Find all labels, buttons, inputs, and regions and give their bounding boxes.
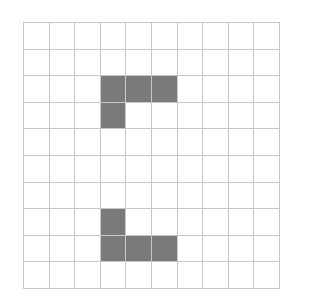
grid-cell (24, 209, 50, 236)
grid-cell (126, 129, 152, 156)
grid-cell (50, 23, 76, 50)
grid-cell (101, 23, 127, 50)
grid-cell (178, 236, 204, 263)
grid-cell (126, 103, 152, 130)
grid-cell (203, 262, 229, 289)
grid-cell (229, 50, 255, 77)
grid-cell (24, 156, 50, 183)
grid-cell (101, 156, 127, 183)
grid-cell (178, 209, 204, 236)
grid-cell (50, 209, 76, 236)
grid-cell (229, 23, 255, 50)
grid-cell (203, 236, 229, 263)
grid-cell-filled (101, 103, 127, 130)
grid-cell (24, 103, 50, 130)
grid-cell (254, 103, 280, 130)
grid-cell (229, 156, 255, 183)
grid-cell (152, 183, 178, 210)
grid-cell (101, 129, 127, 156)
grid-cell (254, 23, 280, 50)
grid-cell (203, 183, 229, 210)
grid-diagram (23, 22, 280, 289)
grid-cell (50, 129, 76, 156)
grid-cell-filled (152, 76, 178, 103)
grid-cell (24, 183, 50, 210)
grid-cell (203, 50, 229, 77)
grid-cell (254, 183, 280, 210)
grid-cell (152, 156, 178, 183)
grid-cell (50, 76, 76, 103)
grid-cell (254, 129, 280, 156)
grid-cell (24, 23, 50, 50)
grid-cell-filled (101, 236, 127, 263)
grid-cell (24, 262, 50, 289)
grid-cell (50, 262, 76, 289)
grid-cell (50, 156, 76, 183)
grid-cell (203, 156, 229, 183)
grid-cell (126, 183, 152, 210)
grid-cell (254, 209, 280, 236)
grid-cell (126, 23, 152, 50)
grid-cell (50, 236, 76, 263)
grid-cell (229, 236, 255, 263)
grid-cell (254, 262, 280, 289)
grid-cell (229, 76, 255, 103)
grid-cell (152, 129, 178, 156)
grid-cell (24, 129, 50, 156)
grid-cell (229, 103, 255, 130)
grid-cell (203, 103, 229, 130)
grid-cell (203, 76, 229, 103)
grid-cell (178, 262, 204, 289)
grid-cell (126, 209, 152, 236)
grid-cell (101, 183, 127, 210)
grid-cell (126, 262, 152, 289)
grid-cell (75, 262, 101, 289)
grid-cell-filled (126, 236, 152, 263)
grid-cell-filled (126, 76, 152, 103)
grid-cell (101, 50, 127, 77)
grid-cell (254, 76, 280, 103)
grid-cell (75, 156, 101, 183)
grid-cell (152, 103, 178, 130)
grid-cell (50, 103, 76, 130)
grid-cell (101, 262, 127, 289)
grid-cell-filled (152, 236, 178, 263)
grid-cell (152, 50, 178, 77)
grid-cell (229, 209, 255, 236)
grid-cell (24, 50, 50, 77)
grid-cell (75, 103, 101, 130)
grid-cell (254, 50, 280, 77)
grid-cell (75, 129, 101, 156)
grid-cell (178, 129, 204, 156)
grid-cell (203, 129, 229, 156)
grid-cell (229, 262, 255, 289)
grid-cell (178, 50, 204, 77)
grid-cell (75, 76, 101, 103)
grid-cell (24, 76, 50, 103)
grid-cell-filled (101, 209, 127, 236)
grid-cell (75, 236, 101, 263)
grid-cell (229, 129, 255, 156)
grid-cell (152, 209, 178, 236)
grid-cell (178, 76, 204, 103)
grid-cell (50, 50, 76, 77)
grid-cell (126, 50, 152, 77)
grid-cell (254, 156, 280, 183)
grid-cell (24, 236, 50, 263)
grid-cell (203, 23, 229, 50)
grid-cell (152, 23, 178, 50)
grid-cell (75, 209, 101, 236)
grid-cell (178, 183, 204, 210)
grid-cell (178, 23, 204, 50)
grid-cell (50, 183, 76, 210)
grid-cell (75, 183, 101, 210)
grid-cell (178, 103, 204, 130)
grid-cell (229, 183, 255, 210)
grid-cell (254, 236, 280, 263)
grid-cell (75, 50, 101, 77)
grid-cell (75, 23, 101, 50)
grid-cell-filled (101, 76, 127, 103)
grid-cell (126, 156, 152, 183)
grid-cell (152, 262, 178, 289)
grid-cell (178, 156, 204, 183)
